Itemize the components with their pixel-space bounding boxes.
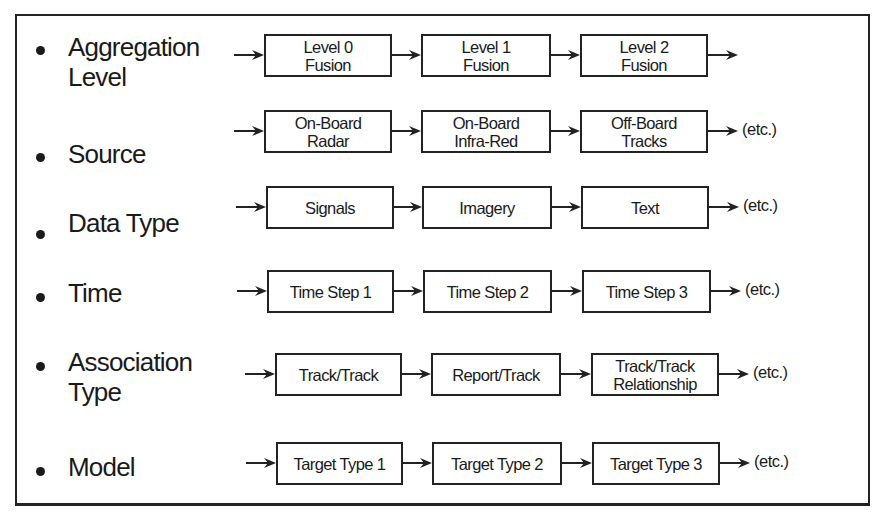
- etc-label: (etc.): [754, 452, 789, 471]
- lead-arrow-icon: [237, 285, 267, 297]
- lead-arrow-icon: [246, 457, 276, 469]
- step-label: Text: [631, 199, 659, 217]
- flow-arrow-icon: [708, 125, 738, 137]
- dimension-label: Model: [68, 452, 135, 482]
- step-box: Target Type 3: [592, 442, 720, 485]
- bullet-icon: [36, 46, 45, 55]
- lead-arrow-icon: [234, 49, 264, 61]
- flow-arrow-icon: [709, 201, 739, 213]
- step-label: Report/Track: [452, 366, 540, 384]
- bullet-icon: [36, 153, 45, 162]
- step-box: Report/Track: [431, 353, 561, 396]
- step-label: Off-Board Tracks: [611, 114, 677, 150]
- step-box: Time Step 3: [582, 270, 711, 313]
- step-box: Time Step 1: [267, 270, 394, 313]
- flow-arrow-icon: [392, 49, 421, 61]
- step-label: Time Step 1: [290, 283, 372, 301]
- step-box: Target Type 1: [276, 442, 403, 485]
- lead-arrow-icon: [234, 125, 264, 137]
- bullet-icon: [36, 230, 45, 239]
- step-label: Signals: [305, 199, 355, 217]
- dimension-label: AggregationLevel: [68, 32, 199, 92]
- dimension-label-line2: Type: [68, 377, 192, 407]
- step-box: Time Step 2: [423, 270, 552, 313]
- flow-arrow-icon: [402, 368, 431, 380]
- step-label: Level 0 Fusion: [303, 38, 352, 74]
- step-label: Track/Track Relationship: [613, 357, 697, 393]
- step-label: Target Type 3: [610, 455, 702, 473]
- step-label: Target Type 2: [451, 455, 543, 473]
- flow-arrow-icon: [719, 368, 749, 380]
- flow-arrow-icon: [551, 49, 580, 61]
- flow-arrow-icon: [711, 285, 741, 297]
- dimension-label: AssociationType: [68, 347, 192, 407]
- step-label: On-Board Infra-Red: [453, 114, 520, 150]
- step-box: Imagery: [422, 186, 552, 229]
- flow-arrow-icon: [720, 457, 750, 469]
- dimension-label-line1: Time: [68, 278, 122, 308]
- flow-arrow-icon: [394, 201, 422, 213]
- flow-arrow-icon: [562, 457, 592, 469]
- dimension-label-line1: Model: [68, 452, 135, 482]
- lead-arrow-icon: [236, 201, 266, 213]
- step-box: On-Board Radar: [264, 110, 392, 153]
- dimension-label-line1: Association: [68, 347, 192, 377]
- etc-label: (etc.): [742, 120, 777, 139]
- dimension-label-line1: Data Type: [68, 208, 179, 238]
- flow-arrow-icon: [561, 368, 591, 380]
- etc-label: (etc.): [753, 363, 788, 382]
- bullet-icon: [36, 362, 45, 371]
- step-box: Off-Board Tracks: [580, 110, 708, 153]
- etc-label: (etc.): [745, 280, 780, 299]
- flow-arrow-icon: [552, 201, 581, 213]
- step-box: Level 1 Fusion: [421, 34, 551, 77]
- step-box: Track/Track Relationship: [591, 353, 719, 396]
- flow-arrow-icon: [392, 125, 421, 137]
- step-box: Track/Track: [275, 353, 402, 396]
- step-label: Imagery: [459, 199, 514, 217]
- step-label: Time Step 2: [447, 283, 529, 301]
- flow-arrow-icon: [403, 457, 432, 469]
- bullet-icon: [36, 293, 45, 302]
- step-box: Signals: [266, 186, 394, 229]
- step-box: On-Board Infra-Red: [421, 110, 551, 153]
- flow-arrow-icon: [551, 125, 580, 137]
- step-box: Level 0 Fusion: [264, 34, 392, 77]
- step-box: Target Type 2: [432, 442, 562, 485]
- flow-arrow-icon: [552, 285, 582, 297]
- dimension-label: Source: [68, 139, 146, 169]
- flow-arrow-icon: [708, 49, 738, 61]
- etc-label: (etc.): [743, 196, 778, 215]
- step-label: Track/Track: [299, 366, 378, 384]
- step-label: Level 2 Fusion: [619, 38, 668, 74]
- step-box: Level 2 Fusion: [580, 34, 708, 77]
- dimension-label: Time: [68, 278, 122, 308]
- lead-arrow-icon: [245, 368, 275, 380]
- step-box: Text: [581, 186, 709, 229]
- flow-arrow-icon: [394, 285, 423, 297]
- dimension-label: Data Type: [68, 208, 179, 238]
- dimension-label-line2: Level: [68, 62, 199, 92]
- step-label: Time Step 3: [606, 283, 688, 301]
- step-label: Level 1 Fusion: [461, 38, 510, 74]
- dimension-label-line1: Aggregation: [68, 32, 199, 62]
- step-label: Target Type 1: [294, 455, 386, 473]
- dimension-label-line1: Source: [68, 139, 146, 169]
- step-label: On-Board Radar: [295, 114, 362, 150]
- bullet-icon: [36, 467, 45, 476]
